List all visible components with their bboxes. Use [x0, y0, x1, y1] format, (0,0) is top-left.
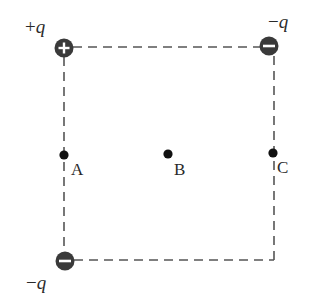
charge-sign: − [268, 11, 279, 32]
negative-charge-top-right [260, 37, 279, 56]
charge-variable: q [36, 16, 46, 37]
charge-square-diagram [0, 0, 311, 305]
charge-label-top-right: −q [268, 12, 288, 31]
point-a-dot [59, 150, 68, 159]
positive-charge-top-left [55, 39, 74, 58]
charge-variable: q [37, 272, 47, 293]
point-b-dot [163, 149, 172, 158]
point-c-dot [268, 148, 277, 157]
charge-label-top-left: +q [25, 17, 45, 36]
charge-sign: − [26, 272, 37, 293]
charge-variable: q [279, 11, 289, 32]
negative-charge-bottom-left [56, 252, 75, 271]
charge-label-bottom-left: −q [26, 273, 46, 292]
point-label-a: A [71, 161, 83, 178]
point-label-c: C [277, 159, 288, 176]
charge-sign: + [25, 16, 36, 37]
point-label-b: B [174, 161, 185, 178]
